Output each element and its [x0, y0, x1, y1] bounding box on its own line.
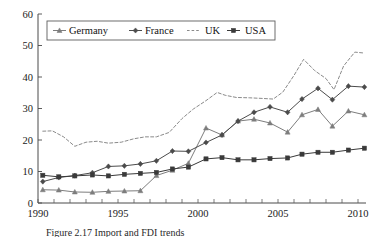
y-tick-label: 0 [28, 198, 33, 209]
legend-label: Germany [69, 25, 109, 36]
y-tick-label: 40 [23, 72, 34, 83]
legend-label: USA [245, 25, 266, 36]
y-tick-label: 10 [23, 166, 34, 177]
y-tick-label: 30 [23, 103, 34, 114]
y-tick-label: 20 [23, 135, 34, 146]
series-usa [41, 146, 367, 179]
legend-label: France [145, 25, 174, 36]
chart-legend: GermanyFranceUKUSA [47, 21, 275, 40]
legend-label: UK [205, 25, 221, 36]
x-tick-label: 2000 [188, 208, 209, 219]
x-tick-label: 2005 [268, 208, 289, 219]
y-tick-label: 50 [23, 40, 34, 51]
y-tick-label: 60 [23, 9, 34, 20]
figure-caption: Figure 2.17 Import and FDI trends [46, 228, 184, 237]
chart-series [40, 52, 367, 194]
x-tick-label: 1995 [108, 208, 129, 219]
figure-caption-strip: Figure 2.17 Import and FDI trends [0, 228, 372, 237]
x-tick-label: 1990 [28, 208, 49, 219]
line-chart: 010203040506019901995200020052010 German… [0, 0, 372, 237]
figure-container: 010203040506019901995200020052010 German… [0, 0, 372, 237]
x-tick-label: 2010 [348, 208, 369, 219]
